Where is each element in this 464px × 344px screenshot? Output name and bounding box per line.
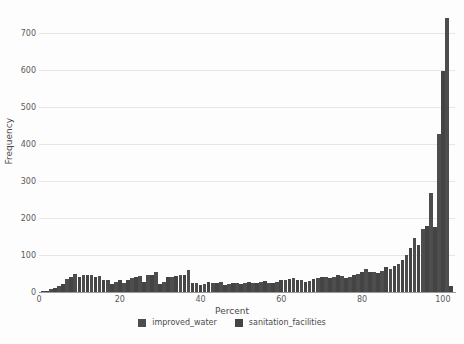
histogram-bar bbox=[320, 277, 324, 293]
legend-swatch-icon bbox=[138, 319, 146, 327]
x-tick-label: 80 bbox=[357, 295, 367, 305]
histogram-bar bbox=[279, 280, 283, 293]
x-tick-label: 0 bbox=[36, 295, 41, 305]
histogram-bar bbox=[417, 245, 421, 293]
histogram-bar bbox=[336, 275, 340, 293]
histogram-bar bbox=[352, 275, 356, 293]
histogram-bar bbox=[94, 277, 98, 293]
histogram-bar bbox=[409, 248, 413, 293]
x-tick-label: 60 bbox=[276, 295, 286, 305]
histogram-bar bbox=[401, 260, 405, 293]
histogram-bar bbox=[344, 278, 348, 293]
legend-item[interactable]: improved_water bbox=[138, 318, 217, 327]
histogram-bar bbox=[183, 275, 187, 293]
legend-swatch-icon bbox=[235, 319, 243, 327]
histogram-bar bbox=[384, 267, 388, 293]
histogram-bar bbox=[393, 266, 397, 293]
bars-container bbox=[39, 12, 455, 293]
histogram-bar bbox=[328, 278, 332, 293]
histogram-bar bbox=[102, 280, 106, 293]
histogram-bar bbox=[166, 277, 170, 293]
histogram-bar bbox=[445, 18, 449, 293]
histogram-bar bbox=[78, 277, 82, 293]
histogram-bar bbox=[425, 226, 429, 293]
histogram-bar bbox=[86, 275, 90, 293]
histogram-bar bbox=[368, 272, 372, 293]
y-axis-label: Frequency bbox=[4, 118, 14, 165]
histogram-bar bbox=[288, 279, 292, 293]
plot-area bbox=[39, 12, 455, 293]
x-tick-label: 20 bbox=[115, 295, 125, 305]
legend-item[interactable]: sanitation_facilities bbox=[235, 318, 326, 327]
legend-label: sanitation_facilities bbox=[249, 318, 326, 327]
chart-legend: improved_watersanitation_facilities bbox=[0, 318, 464, 327]
x-axis-line bbox=[39, 292, 456, 293]
histogram-figure: 0100200300400500600700 020406080100 Freq… bbox=[0, 0, 464, 344]
legend-label: improved_water bbox=[152, 318, 217, 327]
x-tick-label: 40 bbox=[195, 295, 205, 305]
histogram-bar bbox=[312, 279, 316, 293]
histogram-bar bbox=[376, 273, 380, 293]
histogram-bar bbox=[360, 272, 364, 293]
histogram-bar bbox=[441, 71, 445, 293]
histogram-bar bbox=[126, 280, 130, 293]
histogram-bar bbox=[69, 277, 73, 293]
x-axis-label: Percent bbox=[0, 306, 464, 316]
histogram-bar bbox=[174, 276, 178, 293]
histogram-bar bbox=[150, 275, 154, 293]
histogram-bar bbox=[433, 227, 437, 293]
x-tick-label: 100 bbox=[435, 295, 450, 305]
histogram-bar bbox=[134, 277, 138, 293]
